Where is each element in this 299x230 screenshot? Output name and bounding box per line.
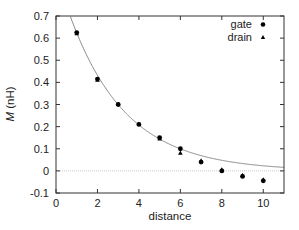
data-point-drain (178, 151, 183, 155)
legend-label-gate: gate (231, 18, 252, 30)
y-tick-label: 0 (43, 165, 49, 177)
y-tick-label: 0.5 (34, 54, 49, 66)
y-tick-label: 0.1 (34, 143, 49, 155)
x-tick-label: 0 (53, 197, 59, 209)
data-point-gate (178, 146, 183, 151)
x-axis-title: distance (149, 210, 192, 222)
y-tick-label: 0.2 (34, 121, 49, 133)
y-axis-title-unit: (nH) (4, 86, 16, 112)
chart: 0246810-0.100.10.20.30.40.50.60.7 gate d… (0, 0, 299, 230)
y-tick-label: 0.3 (34, 99, 49, 111)
x-tick-label: 6 (177, 197, 183, 209)
x-tick-label: 4 (136, 197, 142, 209)
legend: gate drain (228, 18, 266, 43)
y-axis-title: M (nH) (4, 86, 16, 121)
y-tick-label: 0.6 (34, 32, 49, 44)
legend-marker-drain (261, 35, 265, 39)
x-tick-label: 8 (219, 197, 225, 209)
legend-marker-gate (261, 22, 266, 27)
y-tick-label: 0.4 (34, 76, 49, 88)
x-tick-label: 10 (257, 197, 269, 209)
x-tick-label: 2 (94, 197, 100, 209)
legend-label-drain: drain (228, 31, 252, 43)
y-tick-label: -0.1 (30, 187, 49, 199)
y-axis-title-symbol: M (4, 112, 16, 122)
y-tick-label: 0.7 (34, 10, 49, 22)
